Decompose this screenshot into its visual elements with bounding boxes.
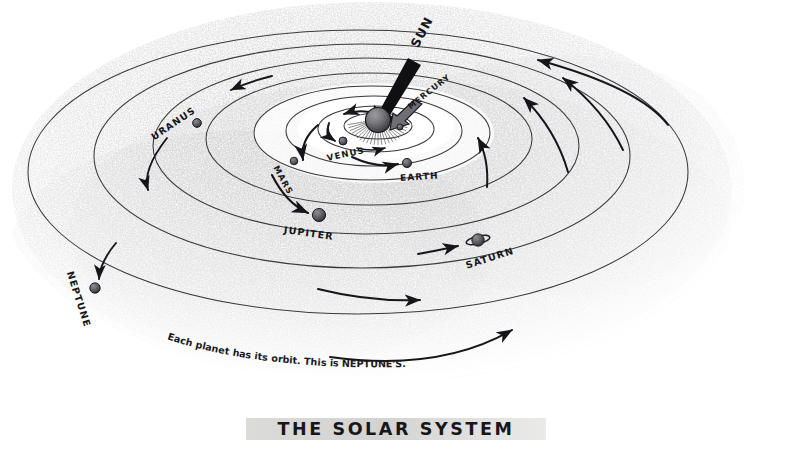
body-uranus (193, 119, 202, 128)
label-earth: EARTH (400, 170, 439, 183)
figure-title: THE SOLAR SYSTEM (246, 418, 546, 440)
earth-body (402, 158, 411, 167)
pencil-shading-background (0, 0, 750, 382)
saturn-body (472, 234, 484, 246)
solar-system-artwork: Each planet has its orbit. This is NEPTU… (0, 0, 792, 451)
body-venus (339, 137, 347, 145)
jupiter-body (312, 208, 325, 221)
body-earth (402, 158, 411, 167)
uranus-body (193, 119, 202, 128)
mercury-body (397, 124, 403, 130)
body-jupiter (312, 208, 325, 221)
body-mercury (397, 124, 403, 130)
body-mars (290, 157, 298, 165)
body-sun (366, 108, 391, 133)
solar-system-figure: Each planet has its orbit. This is NEPTU… (0, 0, 792, 451)
venus-body (339, 137, 347, 145)
body-neptune (90, 283, 100, 293)
neptune-body (90, 283, 100, 293)
sun-body (366, 108, 391, 133)
mars-body (290, 157, 298, 165)
